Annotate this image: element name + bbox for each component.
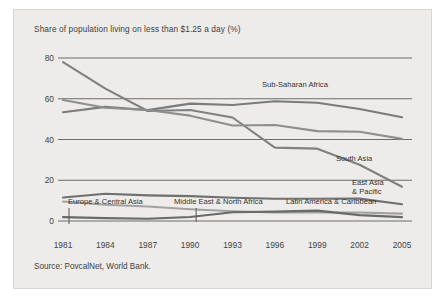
x-tick-label: 2002: [350, 240, 369, 250]
y-tick-label: 80: [28, 53, 54, 63]
series-label-europe-central-asia: Europe & Central Asia: [68, 197, 143, 206]
series-label-east-asia-line2: & Pacific: [352, 187, 384, 196]
source-note: Source: PovcalNet, World Bank.: [34, 262, 151, 271]
series-label-latin-america-caribbean: Latin America & Caribbean: [286, 197, 376, 206]
series-label-east-asia-pacific: East Asia& Pacific: [352, 178, 384, 196]
y-tick-label: 0: [28, 216, 54, 226]
y-tick-label: 60: [28, 94, 54, 104]
series-label-sub-saharan-africa: Sub-Saharan Africa: [262, 80, 328, 89]
series-line: [63, 101, 402, 117]
x-tick-label: 1993: [223, 240, 242, 250]
x-tick-label: 2005: [393, 240, 412, 250]
x-tick-label: 1981: [54, 240, 73, 250]
chart-figure: Share of population living on less than …: [13, 9, 432, 289]
series-label-east-asia-line1: East Asia: [352, 178, 384, 187]
series-label-middle-east-north-africa: Middle East & North Africa: [174, 197, 263, 206]
y-tick-label: 40: [28, 135, 54, 145]
annotation-leader-lines: [69, 208, 196, 224]
x-tick-label: 1996: [266, 240, 285, 250]
x-tick-label: 1984: [96, 240, 115, 250]
plot-area: 020406080 198119841987199019931996199920…: [34, 38, 416, 234]
chart-title: Share of population living on less than …: [34, 24, 241, 34]
x-tick-label: 1999: [308, 240, 327, 250]
series-label-south-asia: South Asia: [336, 154, 372, 163]
x-tick-label: 1990: [181, 240, 200, 250]
y-tick-label: 20: [28, 175, 54, 185]
x-tick-label: 1987: [138, 240, 157, 250]
